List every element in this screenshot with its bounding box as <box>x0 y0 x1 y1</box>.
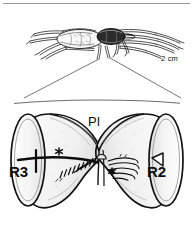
figure-root: R3 R2 Pl 2 cm <box>0 0 193 227</box>
label-segment-r2: R2 <box>147 164 166 179</box>
spider-ventral-legs <box>97 45 110 59</box>
label-segment-r3: R3 <box>9 164 28 179</box>
scale-bar-label: 2 cm <box>161 55 178 63</box>
label-region-pl: Pl <box>88 115 100 128</box>
spider-cephalothorax <box>97 29 125 45</box>
spider-abdomen <box>57 30 103 49</box>
panel-divider <box>14 100 180 104</box>
magnification-callout-lines <box>24 58 181 98</box>
